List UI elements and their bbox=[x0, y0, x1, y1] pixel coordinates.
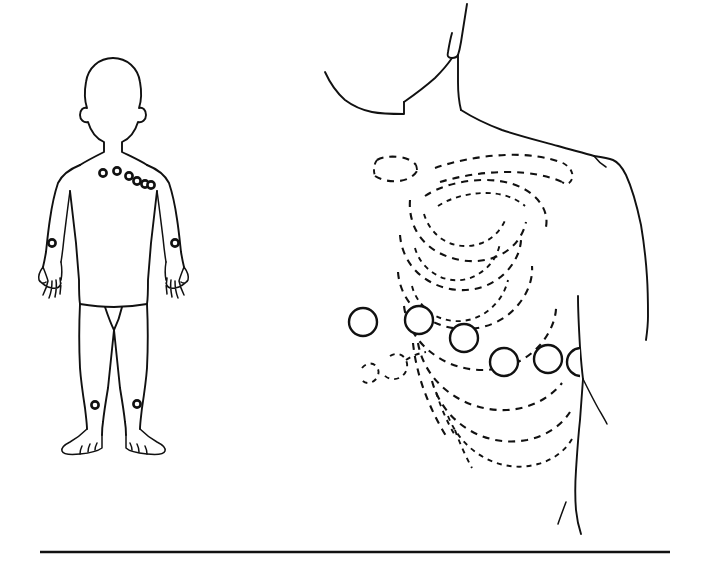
chest-electrode-v3 bbox=[450, 324, 478, 352]
body-electrode-right-leg bbox=[91, 401, 98, 408]
body-electrode-left-arm bbox=[171, 239, 178, 246]
chest-electrode-v2 bbox=[405, 306, 433, 334]
chest-electrode-v5 bbox=[534, 345, 562, 373]
body-electrode-v6 bbox=[147, 181, 154, 188]
illustration-root bbox=[0, 0, 708, 564]
chest-electrode-v4 bbox=[490, 348, 518, 376]
body-electrode-left-leg bbox=[133, 400, 140, 407]
canvas-background bbox=[0, 0, 708, 564]
body-electrode-v4 bbox=[133, 177, 140, 184]
body-electrode-v3 bbox=[125, 172, 132, 179]
ecg-electrode-placement-illustration bbox=[0, 0, 708, 564]
chest-electrode-v1 bbox=[349, 308, 377, 336]
body-electrode-v1 bbox=[99, 169, 106, 176]
body-electrode-v2 bbox=[113, 167, 120, 174]
body-electrode-right-arm bbox=[48, 239, 55, 246]
